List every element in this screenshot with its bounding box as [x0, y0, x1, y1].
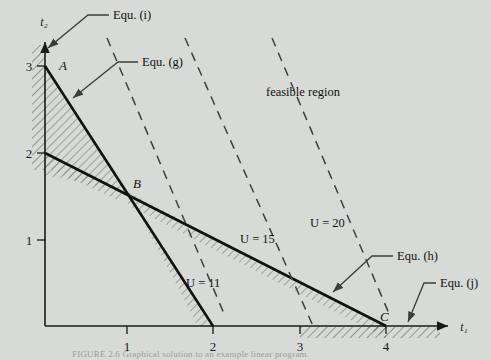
callout-equ-j-label: Equ. (j) — [440, 276, 478, 290]
x-axis-label: t₁ — [460, 320, 468, 334]
upper-right-clear — [250, 40, 480, 200]
vertex-label-a: A — [58, 58, 67, 73]
callout-equ-g-label: Equ. (g) — [142, 55, 183, 69]
vertex-label-b: B — [133, 176, 141, 191]
figure-caption: FIGURE 2.6 Graphical solution to an exam… — [72, 350, 309, 359]
callout-equ-i-label: Equ. (i) — [113, 8, 151, 22]
y-tick-label-3: 3 — [26, 59, 33, 74]
annotation-feasible-region: feasible region — [266, 85, 341, 99]
figure-caption-strip: FIGURE 2.6 Graphical solution to an exam… — [0, 350, 491, 360]
annotation-u11: U = 11 — [186, 276, 220, 290]
hatch-band-equ-i — [32, 45, 45, 170]
y-axis-label: t₂ — [40, 15, 48, 29]
y-tick-label-2: 2 — [26, 146, 33, 161]
linear-program-figure: 1 2 3 4 1 2 3 t₂ t₁ A B C feasible regio… — [0, 0, 491, 360]
annotation-u20: U = 20 — [310, 216, 345, 230]
annotation-u15: U = 15 — [240, 232, 275, 246]
callout-equ-h-label: Equ. (h) — [397, 249, 438, 263]
vertex-label-c: C — [380, 309, 389, 324]
y-tick-label-1: 1 — [26, 233, 33, 248]
